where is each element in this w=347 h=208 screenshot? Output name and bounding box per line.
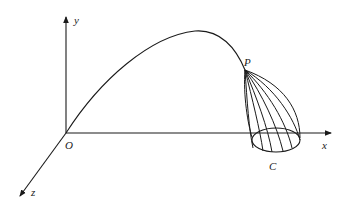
z-axis <box>20 133 66 196</box>
diagram-canvas: y x z O P C <box>0 0 347 208</box>
z-axis-label: z <box>30 186 36 198</box>
curve-o-to-p <box>66 31 245 133</box>
x-axis-label: x <box>321 139 327 151</box>
y-axis-label: y <box>73 14 79 26</box>
surface-curves <box>245 70 300 152</box>
origin-label: O <box>65 139 73 151</box>
curve-c-label: C <box>269 160 277 172</box>
point-p-label: P <box>243 56 251 68</box>
